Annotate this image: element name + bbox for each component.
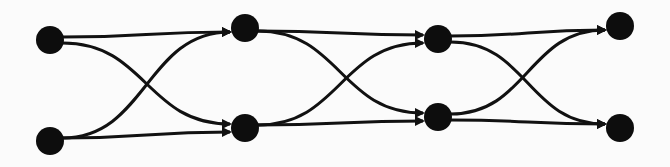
edges-group xyxy=(63,30,605,138)
node-b0 xyxy=(36,127,64,155)
edge-a1-to-b2 xyxy=(258,31,423,113)
node-b2 xyxy=(424,103,452,131)
layered-graph-diagram xyxy=(0,0,670,167)
node-b3 xyxy=(606,114,634,142)
node-a3 xyxy=(606,12,634,40)
edge-b1-to-a2 xyxy=(258,43,423,125)
node-a2 xyxy=(424,25,452,53)
node-b1 xyxy=(231,114,259,142)
edge-b2-to-a3 xyxy=(451,30,605,114)
node-a0 xyxy=(36,26,64,54)
node-a1 xyxy=(231,14,259,42)
